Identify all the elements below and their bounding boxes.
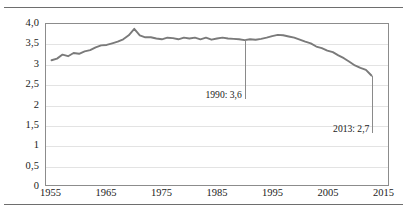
y-tick-label: 1 xyxy=(34,140,39,151)
y-axis-labels: 00,511,522,533,54,0 xyxy=(0,23,42,186)
annotation-2013-label: 2013: 2,7 xyxy=(333,124,369,134)
y-tick-label: 3,5 xyxy=(26,38,39,49)
annotation-2013-leader-line xyxy=(372,76,373,133)
y-tick-label: 3 xyxy=(34,59,39,70)
x-tick-label: 2015 xyxy=(373,188,394,199)
x-tick-label: 2005 xyxy=(317,188,338,199)
x-axis-labels: 1955196519751985199520052015 xyxy=(45,188,389,206)
data-line-series xyxy=(46,24,388,185)
x-tick-label: 1965 xyxy=(96,188,117,199)
y-tick-label: 0 xyxy=(34,181,39,192)
y-tick-label: 2,5 xyxy=(26,79,39,90)
y-tick-label: 0,5 xyxy=(26,160,39,171)
y-tick-label: 4,0 xyxy=(26,18,39,29)
x-tick-label: 1975 xyxy=(151,188,172,199)
y-tick-label: 1,5 xyxy=(26,120,39,131)
figure-container: 00,511,522,533,54,0 19551965197519851995… xyxy=(0,0,407,214)
x-tick-label: 1995 xyxy=(262,188,283,199)
series-line xyxy=(52,29,372,76)
annotation-1990-label: 1990: 3,6 xyxy=(205,90,241,100)
x-tick-label: 1955 xyxy=(40,188,61,199)
chart-plot-area xyxy=(45,23,389,186)
annotation-1990-leader-line xyxy=(245,39,246,99)
x-tick-label: 1985 xyxy=(207,188,228,199)
y-tick-label: 2 xyxy=(34,99,39,110)
figure-top-rule xyxy=(4,7,403,8)
